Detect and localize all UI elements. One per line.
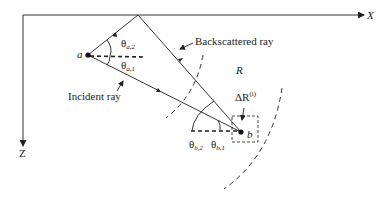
x-axis-label: X xyxy=(366,9,375,21)
angle-arc-a1 xyxy=(107,56,110,65)
incident-ray-label: Incident ray xyxy=(68,90,121,102)
point-b xyxy=(238,129,243,134)
delta-r-pointer xyxy=(242,108,244,120)
svg-text:θb,2: θb,2 xyxy=(189,138,204,152)
delta-r-label: ΔR(i) xyxy=(235,90,257,103)
angle-arc-b2 xyxy=(192,101,214,131)
region-inner-boundary xyxy=(166,55,203,118)
z-axis-label: Z xyxy=(19,147,26,159)
point-b-label: b xyxy=(247,128,253,140)
svg-text:θa,1: θa,1 xyxy=(121,59,135,73)
region-outer-boundary xyxy=(224,88,282,189)
point-a xyxy=(85,52,90,57)
svg-text:θa,2: θa,2 xyxy=(121,37,136,51)
theta-b2-label: θb,2 xyxy=(189,138,204,152)
backscattered-ray-segment-up xyxy=(138,15,241,132)
backscattered-ray-label: Backscattered ray xyxy=(195,35,274,47)
theta-b1-label: θb,1 xyxy=(211,138,225,152)
svg-text:ΔR(i): ΔR(i) xyxy=(235,90,257,103)
point-a-label: a xyxy=(77,48,83,60)
backscattered-ray-pointer xyxy=(180,43,193,49)
svg-text:θb,1: θb,1 xyxy=(211,138,225,152)
angle-arc-a2 xyxy=(107,40,111,56)
theta-a1-label: θa,1 xyxy=(121,59,135,73)
region-label: R xyxy=(235,64,243,76)
reference-line-a xyxy=(90,56,143,57)
theta-a2-label: θa,2 xyxy=(121,37,136,51)
ray-geometry-diagram: X Z a b θa,2 θa,1 θb,2 θb,1 Backscattere… xyxy=(0,0,392,199)
